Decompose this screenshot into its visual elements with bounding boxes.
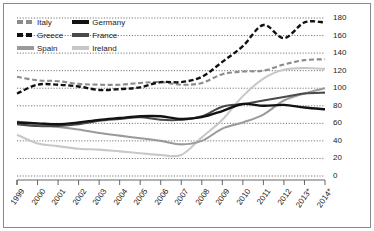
legend-label-france: France [92, 31, 117, 40]
y-axis-label-0: 0 [333, 171, 337, 180]
y-axis-label-160: 160 [333, 31, 346, 40]
legend-column-left: Italy Greece Spain [17, 16, 63, 54]
legend-item-france[interactable]: France [72, 29, 125, 41]
y-axis-label-60: 60 [333, 118, 342, 127]
legend-column-right: Germany France Ireland [72, 16, 125, 54]
legend-item-greece[interactable]: Greece [17, 29, 63, 41]
chart-figure: Italy Greece Spain Germany France I [0, 0, 374, 231]
legend-item-italy[interactable]: Italy [17, 16, 63, 28]
y-axis-label-80: 80 [333, 101, 342, 110]
series-line-spain [17, 88, 325, 144]
legend-label-spain: Spain [37, 44, 57, 53]
y-axis-label-20: 20 [333, 153, 342, 162]
y-axis-label-120: 120 [333, 66, 346, 75]
legend-swatch-france [72, 33, 89, 37]
legend-swatch-italy [17, 20, 34, 24]
y-axis-label-140: 140 [333, 48, 346, 57]
series-line-france [17, 93, 325, 127]
legend-item-spain[interactable]: Spain [17, 42, 63, 54]
y-axis-label-100: 100 [333, 83, 346, 92]
y-axis-label-180: 180 [333, 13, 346, 22]
legend-swatch-ireland [72, 46, 89, 50]
legend-label-italy: Italy [37, 18, 52, 27]
legend-item-germany[interactable]: Germany [72, 16, 125, 28]
legend-item-ireland[interactable]: Ireland [72, 42, 125, 54]
chart-legend: Italy Greece Spain Germany France I [17, 16, 125, 54]
legend-label-ireland: Ireland [92, 44, 116, 53]
legend-swatch-spain [17, 46, 34, 50]
y-axis-label-40: 40 [333, 136, 342, 145]
legend-swatch-germany [72, 20, 89, 24]
legend-label-greece: Greece [37, 31, 63, 40]
legend-swatch-greece [17, 33, 34, 37]
legend-label-germany: Germany [92, 18, 125, 27]
